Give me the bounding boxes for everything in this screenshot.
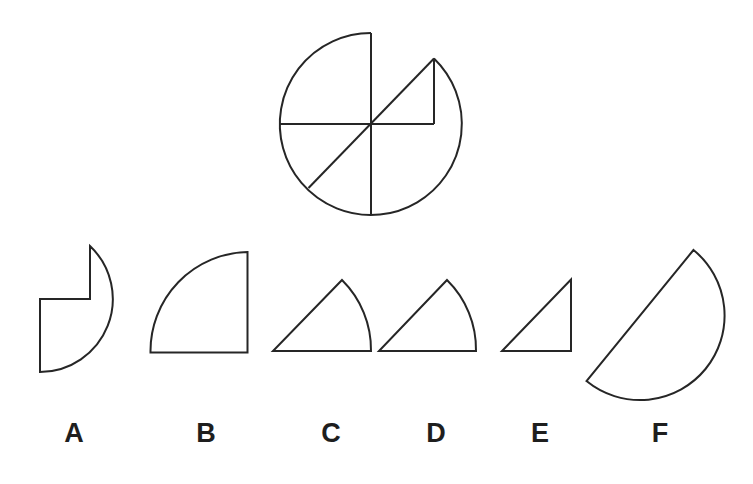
option-e-shape[interactable]	[502, 280, 571, 352]
main-figure	[280, 33, 462, 215]
puzzle-canvas	[0, 0, 753, 484]
option-f-shape[interactable]	[587, 250, 725, 400]
option-e-label[interactable]: E	[520, 421, 560, 445]
option-a-shape[interactable]	[40, 246, 113, 372]
option-d-shape[interactable]	[379, 280, 476, 351]
option-b-shape[interactable]	[150, 252, 247, 353]
option-c-shape[interactable]	[273, 280, 371, 351]
option-b-label[interactable]: B	[186, 421, 226, 445]
option-c-label[interactable]: C	[311, 421, 351, 445]
option-d-label[interactable]: D	[416, 421, 456, 445]
option-a-label[interactable]: A	[54, 421, 94, 445]
option-f-label[interactable]: F	[640, 421, 680, 445]
